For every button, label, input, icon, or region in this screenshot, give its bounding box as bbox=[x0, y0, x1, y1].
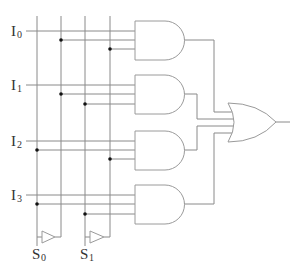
junction-dot bbox=[59, 38, 63, 42]
svg-text:0: 0 bbox=[41, 252, 46, 263]
input-label-i0: I 0 bbox=[11, 23, 22, 40]
select-label-s0: S 0 bbox=[32, 246, 46, 263]
svg-text:1: 1 bbox=[17, 83, 22, 94]
svg-text:3: 3 bbox=[17, 193, 22, 204]
junction-dot bbox=[35, 202, 39, 206]
and-gate-icon bbox=[135, 75, 184, 114]
input-label-i3: I 3 bbox=[11, 187, 22, 204]
svg-text:S: S bbox=[80, 246, 88, 262]
junction-dot bbox=[35, 148, 39, 152]
not-gate-icon bbox=[42, 231, 55, 243]
and-gate-0-inputs bbox=[26, 31, 135, 51]
select-bus bbox=[37, 16, 110, 246]
inverter-s0 bbox=[37, 231, 61, 243]
not-gate-icon bbox=[90, 231, 104, 243]
svg-text:1: 1 bbox=[89, 252, 94, 263]
and-gate-icon bbox=[135, 185, 185, 224]
svg-text:S: S bbox=[32, 246, 40, 262]
and-to-or-wires bbox=[185, 40, 235, 204]
junction-dot bbox=[108, 157, 112, 161]
mux-4to1-diagram: I 0 I 1 I 2 I 3 S 0 S 1 bbox=[0, 0, 300, 268]
junction-dot bbox=[59, 92, 63, 96]
and-gate-1-inputs bbox=[26, 85, 135, 106]
and-gate-2-inputs bbox=[26, 141, 135, 161]
svg-text:0: 0 bbox=[17, 29, 22, 40]
input-label-i2: I 2 bbox=[11, 133, 22, 150]
or-gate-icon bbox=[228, 103, 276, 142]
and-gate-icon bbox=[135, 131, 185, 170]
svg-text:I: I bbox=[11, 77, 16, 93]
inverter-s1 bbox=[85, 231, 110, 243]
svg-text:2: 2 bbox=[17, 139, 22, 150]
svg-text:I: I bbox=[11, 187, 16, 203]
junction-dot bbox=[108, 47, 112, 51]
and-gate-icon bbox=[135, 21, 185, 60]
junction-dot bbox=[83, 212, 87, 216]
and-gate-3-inputs bbox=[26, 195, 135, 216]
junction-dot bbox=[83, 102, 87, 106]
input-label-i1: I 1 bbox=[11, 77, 22, 94]
svg-text:I: I bbox=[11, 133, 16, 149]
select-label-s1: S 1 bbox=[80, 246, 94, 263]
svg-text:I: I bbox=[11, 23, 16, 39]
